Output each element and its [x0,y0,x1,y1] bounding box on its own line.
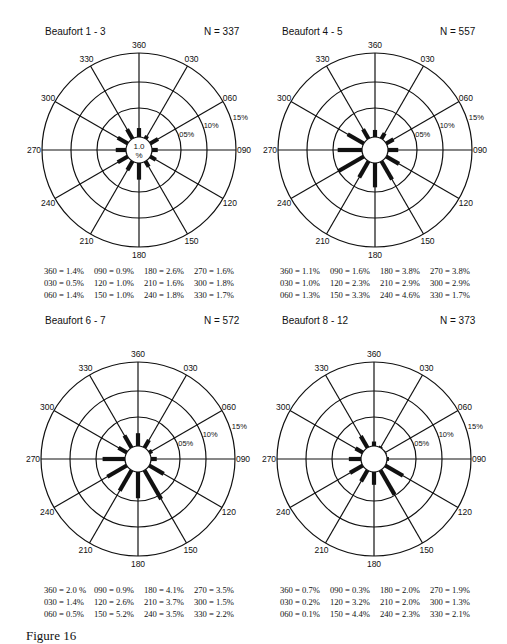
frequency-bar [338,157,363,172]
stat-entry: 180 = 3.8% [380,266,420,276]
direction-label: 090 [237,145,251,155]
direction-label: 330 [315,54,329,64]
direction-label: 240 [276,507,290,517]
stat-entry: 240 = 2.3% [380,609,420,619]
rose-panel-beaufort-4-5: Beaufort 4 - 5 N = 557 36003006009012015… [253,0,506,300]
stat-entry: 120 = 3.2% [330,597,370,607]
frequency-bar [382,161,393,179]
frequency-bar [118,448,126,453]
stat-entry: 120 = 1.0% [94,278,134,288]
stat-entry: 210 = 3.7% [144,597,184,607]
direction-label: 240 [41,198,55,208]
direction-label: 120 [458,507,472,517]
stat-entry: 240 = 4.6% [380,290,420,300]
frequency-bar [386,139,393,143]
stat-entry: 270 = 1.9% [430,585,470,595]
stat-entry: 150 = 3.3% [330,290,370,300]
frequency-bar [361,436,368,448]
direction-label: 120 [459,198,473,208]
direction-label: 210 [314,545,328,555]
direction-label: 360 [368,40,382,50]
stat-entry: 300 = 1.8% [194,278,234,288]
rose-panel-beaufort-6-7: Beaufort 6 - 7 N = 572 36003006009012015… [0,310,253,610]
stat-entry: 180 = 4.1% [144,585,184,595]
stat-entry: 330 = 1.7% [194,290,234,300]
figure-caption: Figure 16 [26,628,76,644]
direction-label: 210 [79,236,93,246]
stat-entry: 240 = 1.8% [144,290,184,300]
frequency-bar [361,470,367,481]
frequency-bar [145,470,162,499]
frequency-bar [385,466,403,476]
direction-label: 330 [79,54,93,64]
stat-entry: 270 = 3.5% [194,585,234,595]
stat-entry: 210 = 2.0% [380,597,420,607]
direction-label: 060 [223,93,237,103]
center-scale-label: 1.0 [133,142,145,151]
stat-entry: 030 = 0.5% [44,278,84,288]
stat-entry: 270 = 3.8% [430,266,470,276]
frequency-bar [363,129,368,138]
ring-label: 10% [203,430,218,439]
direction-label: 210 [315,236,329,246]
stat-entry: 120 = 2.3% [330,278,370,288]
direction-label: 180 [367,559,381,569]
direction-label: 270 [262,454,276,464]
stat-entry: 300 = 1.5% [194,597,234,607]
stat-entry: 330 = 2.1% [430,609,470,619]
direction-label: 300 [40,402,54,412]
frequency-bar [386,157,399,164]
wind-rose-chart: 36003006009012015018021024027030033005%1… [253,310,506,610]
direction-label: 360 [367,349,381,359]
rose-panel-beaufort-8-12: Beaufort 8 - 12 N = 373 3600300600901201… [253,310,506,610]
direction-label: 180 [132,250,146,260]
direction-label: 120 [222,507,236,517]
stat-entry: 300 = 2.9% [430,278,470,288]
direction-label: 180 [131,559,145,569]
frequency-bar [350,466,363,473]
direction-label: 270 [27,145,41,155]
direction-label: 150 [420,236,434,246]
stat-entry: 060 = 1.3% [280,290,320,300]
ring-label: 05% [415,130,430,139]
stat-entry: 030 = 1.0% [280,278,320,288]
direction-label: 090 [472,454,486,464]
ring-label: 05% [178,439,193,448]
frequency-bar [118,157,128,163]
frequency-bar [356,448,363,452]
stat-entry: 360 = 0.7% [280,585,320,595]
frequency-bar [124,436,131,448]
frequency-bar [107,466,126,477]
direction-label: 210 [78,545,92,555]
direction-label: 030 [183,363,197,373]
ring-label: 10% [440,121,455,130]
direction-label: 120 [223,198,237,208]
ring-label: 15% [468,422,483,431]
rose-panel-beaufort-1-3: Beaufort 1 - 3 N = 337 36003006009012015… [0,0,253,300]
ring-label: 05% [179,130,194,139]
frequency-bar [120,470,132,491]
direction-label: 030 [420,54,434,64]
stat-entry: 330 = 1.7% [430,290,470,300]
stat-entry: 060 = 0.5% [44,609,84,619]
stat-entry: 330 = 2.2% [194,609,234,619]
ring-label: 15% [469,113,484,122]
stat-entry: 030 = 1.4% [44,597,84,607]
direction-label: 030 [184,54,198,64]
stat-entry: 150 = 4.4% [330,609,370,619]
direction-label: 090 [236,454,250,464]
wind-rose-chart: 36003006009012015018021024027030033005%1… [0,0,253,300]
direction-label: 060 [459,93,473,103]
direction-label: 300 [277,93,291,103]
stat-entry: 360 = 1.4% [44,266,84,276]
wind-rose-chart: 36003006009012015018021024027030033005%1… [253,0,506,300]
direction-label: 150 [419,545,433,555]
direction-label: 330 [314,363,328,373]
frequency-bar [127,129,132,138]
stat-entry: 210 = 1.6% [144,278,184,288]
direction-label: 360 [132,40,146,50]
direction-label: 060 [458,402,472,412]
stat-entry: 090 = 0.9% [94,585,134,595]
direction-label: 240 [40,507,54,517]
direction-label: 270 [26,454,40,464]
